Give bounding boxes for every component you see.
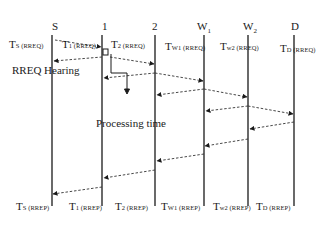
rrep-s-sub: S (RREP) [23, 204, 50, 211]
rrep-d-sub: D (RREP) [263, 204, 291, 211]
rrep-w2-sub: w2 (RREP) [220, 204, 251, 211]
rreq-label-s: TS (RREQ) [9, 38, 43, 52]
message-arrow-1-to-s [53, 187, 102, 194]
rrep-w2-main: T [213, 200, 220, 212]
rreq-w1-sub: W1 (RREQ) [172, 44, 206, 51]
node-label-s: S [52, 21, 58, 32]
node-label-w2: W2 [243, 21, 257, 37]
message-arrow-w2-to-w1 [206, 106, 248, 111]
rreq-s-main: T [9, 38, 16, 50]
message-arrow-w1-to-2 [157, 154, 204, 161]
rrep-2-sub: 2 (RREP) [122, 204, 148, 211]
message-arrow-w1-to-2 [157, 89, 204, 95]
node-s-text: S [52, 20, 58, 32]
message-arrow-1-to-s [54, 57, 102, 61]
rrep-label-w1: TW1 (RREP) [161, 200, 200, 214]
node-w1-sub: 1 [207, 27, 211, 35]
rreq-w2-main: T [220, 40, 227, 52]
rrep-s-main: T [16, 200, 23, 212]
rreq-hearing-label: RREQ Hearing [12, 64, 80, 76]
node-d-text: D [291, 20, 299, 32]
rreq-label-d: TD (RREQ) [280, 42, 316, 56]
node-2-text: 2 [152, 20, 158, 32]
sequence-diagram: S 1 2 W1 W2 D TS (RREQ) T1 (RREQ) T2 (RR… [0, 0, 333, 227]
rreq-w2-sub: w2 (RREQ) [227, 44, 259, 51]
message-arrow-w2-to-d [248, 106, 293, 114]
node-w1-text: W [197, 20, 207, 32]
rreq-label-2: T2 (RREQ) [111, 38, 145, 52]
rreq-2-sub: 2 (RREQ) [118, 42, 145, 49]
diagram-canvas [0, 0, 333, 227]
lifelines [52, 35, 294, 206]
node-1-text: 1 [102, 20, 108, 32]
rrep-1-main: T [69, 200, 76, 212]
message-arrow-2-to-1 [104, 170, 155, 178]
rreq-label-w2: Tw2 (RREQ) [220, 40, 259, 54]
message-arrow-w2-to-w1 [205, 139, 248, 146]
node-label-1: 1 [102, 21, 108, 32]
processing-time-arrow-icon [125, 89, 130, 94]
rrep-2-main: T [115, 200, 122, 212]
node-label-d: D [291, 21, 299, 32]
rreq-1-main: T [62, 38, 69, 50]
message-arrow-1-to-2 [110, 57, 154, 64]
rrep-label-2: T2 (RREP) [115, 200, 148, 214]
message-arrow-d-to-w2 [250, 122, 294, 129]
rrep-label-1: T1 (RREP) [69, 200, 102, 214]
message-arrow-2-to-1 [104, 73, 155, 78]
rrep-1-sub: 1 (RREP) [76, 204, 102, 211]
rreq-label-1: T1 (RREQ) [62, 38, 96, 52]
rreq-w1-main: T [165, 40, 172, 52]
node-label-w1: W1 [197, 21, 211, 37]
messages [53, 40, 294, 194]
rrep-label-d: TD (RREP) [256, 200, 290, 214]
rreq-1-sub: 1 (RREQ) [69, 42, 96, 49]
rreq-s-sub: S (RREQ) [16, 42, 44, 49]
rreq-label-w1: TW1 (RREQ) [165, 40, 205, 54]
rrep-w1-sub: W1 (RREP) [168, 204, 201, 211]
processing-time-bracket [103, 49, 130, 94]
message-arrow-w1-to-w2 [204, 89, 247, 97]
message-arrow-2-to-w1 [155, 73, 203, 81]
rreq-d-main: T [280, 42, 287, 54]
delay-box [103, 49, 108, 55]
processing-time-label: Processing time [96, 117, 166, 129]
rrep-d-main: T [256, 200, 263, 212]
rreq-2-main: T [111, 38, 118, 50]
rreq-d-sub: D (RREQ) [287, 46, 316, 53]
rrep-w1-main: T [161, 200, 168, 212]
rrep-label-s: TS (RREP) [16, 200, 49, 214]
rrep-label-w2: Tw2 (RREP) [213, 200, 251, 214]
node-w2-text: W [243, 20, 253, 32]
node-w2-sub: 2 [253, 27, 257, 35]
node-label-2: 2 [152, 21, 158, 32]
